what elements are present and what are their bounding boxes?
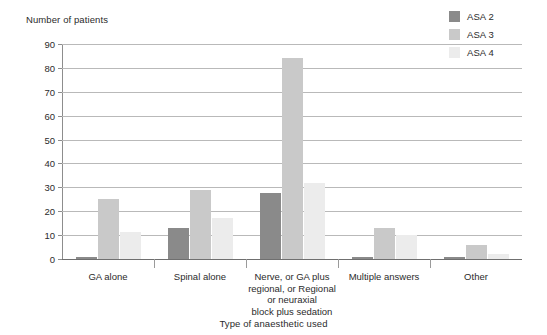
legend-swatch-icon [449, 29, 460, 40]
category-separator-tick [246, 259, 247, 268]
y-axis-title: Number of patients [26, 14, 108, 25]
x-axis-category-label: GA alone [88, 271, 127, 283]
y-tick-label: 10 [44, 230, 55, 241]
x-axis-category-label: Multiple answers [349, 271, 420, 283]
bar [444, 257, 465, 259]
x-axis-category-label-line: regional, or Regional [248, 283, 336, 295]
bar [120, 232, 141, 259]
bar [396, 235, 417, 259]
x-axis-category-label-line: Other [464, 271, 488, 283]
y-tick-label: 80 [44, 62, 55, 73]
y-tick-label: 20 [44, 206, 55, 217]
x-axis-category-label-line: Spinal alone [174, 271, 226, 283]
y-tick-label: 0 [50, 254, 55, 265]
bar-group [246, 44, 338, 259]
bar [260, 193, 281, 259]
bar [488, 254, 509, 259]
bar-group [62, 44, 154, 259]
x-axis-category-label: Nerve, or GA plusregional, or Regionalor… [248, 271, 336, 317]
legend-item: ASA 3 [449, 26, 535, 42]
plot-area: 0102030405060708090GA aloneSpinal aloneN… [62, 44, 522, 259]
bar [98, 199, 119, 259]
x-axis-category-label: Other [464, 271, 488, 283]
x-axis-title: Type of anaesthetic used [0, 318, 547, 329]
bar [212, 218, 233, 259]
bar [374, 228, 395, 259]
bar-group [338, 44, 430, 259]
category-separator-tick [338, 259, 339, 268]
bar [352, 257, 373, 259]
bar [282, 58, 303, 259]
y-tick-label: 30 [44, 182, 55, 193]
x-axis-category-label-line: block plus sedation [248, 306, 336, 318]
x-axis-category-label: Spinal alone [174, 271, 226, 283]
bar [168, 228, 189, 259]
legend-swatch-icon [449, 11, 460, 22]
bar-group [430, 44, 522, 259]
y-tick-label: 70 [44, 86, 55, 97]
x-axis-category-label-line: Nerve, or GA plus [248, 271, 336, 283]
y-tick-label: 60 [44, 110, 55, 121]
bar-group [154, 44, 246, 259]
legend-item-label: ASA 2 [467, 11, 494, 22]
legend-item-label: ASA 3 [467, 29, 494, 40]
x-axis-category-label-line: Multiple answers [349, 271, 420, 283]
y-tick-mark [58, 259, 62, 260]
y-tick-label: 40 [44, 158, 55, 169]
bar [304, 183, 325, 259]
category-separator-tick [430, 259, 431, 268]
y-tick-label: 90 [44, 39, 55, 50]
y-tick-label: 50 [44, 134, 55, 145]
bar [466, 245, 487, 259]
legend-item: ASA 2 [449, 8, 535, 24]
x-axis-category-label-line: GA alone [88, 271, 127, 283]
x-axis-category-label-line: or neuraxial [248, 294, 336, 306]
category-separator-tick [154, 259, 155, 268]
bar [76, 257, 97, 259]
bar [190, 190, 211, 259]
